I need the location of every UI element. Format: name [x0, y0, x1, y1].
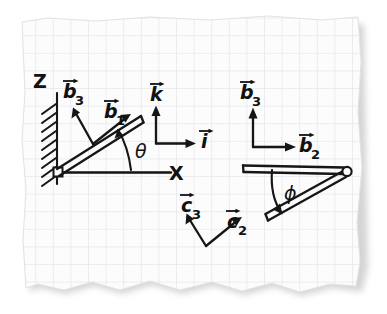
- label-b1-sub: 1: [116, 113, 125, 128]
- label-phi: ϕ: [284, 182, 297, 204]
- label-b3-left-sub: 3: [75, 93, 84, 108]
- circular-pin-joint: [342, 167, 351, 176]
- label-c3-sub: 3: [192, 207, 201, 222]
- label-k-hat: k: [150, 82, 165, 105]
- handdrawn-diagram-svg: Z X b 3 b 1 k i θ: [0, 0, 387, 314]
- label-theta: θ: [135, 140, 147, 162]
- label-axis-x: X: [169, 162, 184, 184]
- label-axis-z: Z: [33, 70, 47, 92]
- label-c2-sub: 2: [238, 223, 247, 238]
- label-i-base: i: [201, 130, 208, 152]
- label-b3-right-sub: 3: [252, 94, 261, 109]
- label-b2-sub: 2: [311, 147, 320, 162]
- figure-canvas: Z X b 3 b 1 k i θ: [0, 0, 387, 314]
- label-k-base: k: [150, 83, 164, 105]
